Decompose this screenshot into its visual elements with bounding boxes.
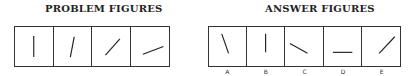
answer-option-d[interactable] <box>324 27 362 66</box>
problem-figure-3 <box>92 27 131 66</box>
line-icon <box>362 27 400 66</box>
line-icon <box>92 27 130 66</box>
answer-option-c[interactable] <box>285 27 323 66</box>
line-icon <box>15 27 53 66</box>
answer-option-e[interactable] <box>362 27 400 66</box>
problem-figure-1 <box>15 27 54 66</box>
line-icon <box>209 27 246 66</box>
line-icon <box>285 27 322 66</box>
answer-option-a[interactable] <box>209 27 247 66</box>
answer-figures-panel <box>208 26 401 67</box>
line-icon <box>324 27 361 66</box>
problem-figures-title: PROBLEM FIGURES <box>45 3 162 14</box>
problem-figures-panel <box>14 26 170 67</box>
problem-figure-4 <box>131 27 169 66</box>
answer-label-a: A <box>208 68 247 75</box>
line-icon <box>131 27 169 66</box>
answer-label-b: B <box>247 68 286 75</box>
line-icon <box>247 27 284 66</box>
line-icon <box>54 27 92 66</box>
answer-figures-title: ANSWER FIGURES <box>265 3 375 14</box>
answer-label-e: E <box>362 68 401 75</box>
problem-figure-2 <box>54 27 93 66</box>
answer-label-d: D <box>324 68 363 75</box>
answer-labels: A B C D E <box>208 68 401 75</box>
answer-label-c: C <box>285 68 324 75</box>
answer-option-b[interactable] <box>247 27 285 66</box>
